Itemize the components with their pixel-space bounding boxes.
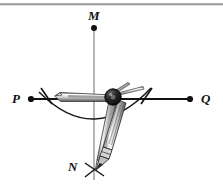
point-label-n: N bbox=[68, 160, 77, 173]
compass-needle-arm bbox=[55, 93, 114, 102]
construction-arc bbox=[39, 88, 151, 119]
top-rule bbox=[0, 3, 223, 5]
point-label-m: M bbox=[88, 9, 100, 22]
point-q-dot bbox=[187, 96, 193, 102]
figure-canvas: M P Q N bbox=[0, 0, 223, 187]
point-label-p: P bbox=[12, 92, 20, 105]
compass-pivot-knob bbox=[105, 89, 121, 105]
compass-tool bbox=[55, 83, 145, 171]
point-p-dot bbox=[28, 96, 34, 102]
geometry-figure bbox=[0, 0, 223, 187]
point-label-q: Q bbox=[201, 92, 210, 105]
point-m-dot bbox=[91, 25, 97, 31]
